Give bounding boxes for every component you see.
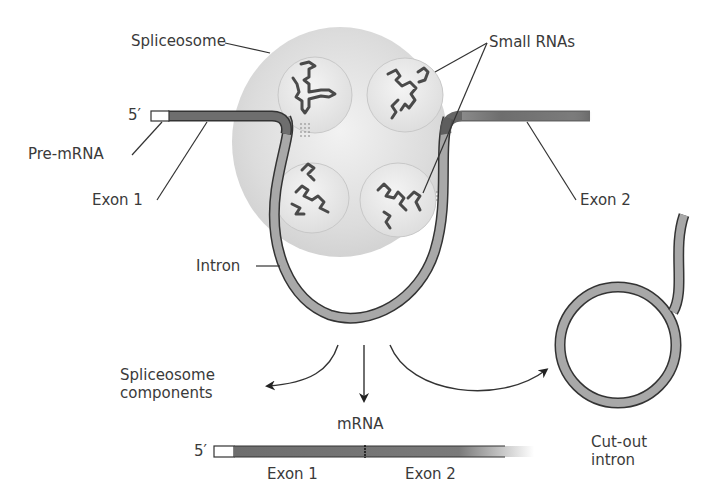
spliceosome-components-line2: components <box>120 384 215 402</box>
process-arrows <box>268 345 546 400</box>
cut-out-intron-line2: intron <box>591 451 647 469</box>
cut-out-intron-lariat <box>560 215 684 403</box>
five-prime-label-top: 5′ <box>128 107 141 124</box>
intron-label: Intron <box>196 258 240 275</box>
spliceosome-label: Spliceosome <box>131 33 226 50</box>
spliceosome-components-line1: Spliceosome <box>120 366 215 384</box>
mature-mrna <box>214 445 534 458</box>
five-prime-cap-top <box>151 111 169 121</box>
exon2-label-top: Exon 2 <box>580 192 631 209</box>
mrna-label: mRNA <box>337 416 384 433</box>
five-prime-label-bottom: 5′ <box>194 443 207 460</box>
exon1-label-bottom: Exon 1 <box>267 466 318 483</box>
spliceosome-components-label: Spliceosome components <box>120 366 215 402</box>
cut-out-intron-line1: Cut-out <box>591 433 647 451</box>
exon1-label-top: Exon 1 <box>92 192 143 209</box>
small-rnas-label: Small RNAs <box>489 34 575 51</box>
pre-mrna-label: Pre-mRNA <box>28 146 104 163</box>
cut-out-intron-label: Cut-out intron <box>591 433 647 469</box>
exon2-label-bottom: Exon 2 <box>405 466 456 483</box>
